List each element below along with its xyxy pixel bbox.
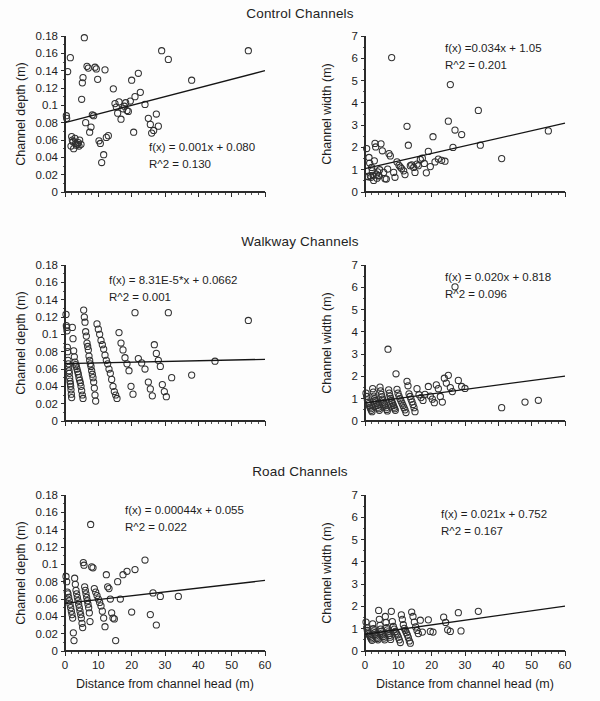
equation-annotation: f(x) = 0.001x + 0.080 (149, 141, 255, 153)
y-tick-label: 7 (352, 259, 358, 271)
plot-panel-control-width: 01234567Channel width (m)f(x) =0.034x + … (309, 24, 599, 224)
y-tick-label: 3 (352, 119, 358, 131)
x-tick-label: 0 (362, 659, 368, 671)
y-tick-label: 5 (352, 75, 358, 87)
y-tick-label: 0.04 (36, 151, 59, 163)
r-squared-annotation: R^2 = 0.001 (109, 291, 171, 303)
y-tick-label: 0.02 (36, 169, 58, 181)
scatter-points (363, 284, 542, 416)
scatter-points (364, 55, 552, 184)
y-tick-label: 0.16 (36, 506, 58, 518)
x-tick-label: 10 (392, 659, 405, 671)
y-tick-label: 0.14 (36, 65, 59, 77)
plot-panel-walkway-depth: 00.020.040.060.080.10.120.140.160.18Chan… (9, 253, 299, 453)
y-tick-label: 2 (352, 141, 358, 153)
x-axis-title: Distance from channel head (m) (376, 677, 554, 691)
regression-line (65, 359, 265, 363)
y-tick-label: 5 (352, 304, 358, 316)
x-tick-label: 40 (492, 659, 505, 671)
y-tick-label: 6 (352, 52, 358, 64)
x-tick-label: 40 (192, 659, 205, 671)
y-tick-label: 0.1 (42, 328, 58, 340)
y-axis-title: Channel width (m) (320, 522, 334, 623)
y-tick-label: 6 (352, 281, 358, 293)
x-tick-label: 50 (525, 659, 538, 671)
y-tick-label: 3 (352, 578, 358, 590)
y-tick-label: 0.1 (42, 99, 58, 111)
y-tick-label: 0.04 (36, 380, 59, 392)
y-tick-label: 0.1 (42, 558, 58, 570)
x-tick-label: 30 (159, 659, 172, 671)
y-tick-label: 7 (352, 489, 358, 501)
equation-annotation: f(x) = 0.021x + 0.752 (441, 508, 547, 520)
y-tick-label: 0.12 (36, 82, 58, 94)
y-tick-label: 1 (352, 164, 358, 176)
plot-panel-road-width: 012345670102030405060Distance from chann… (309, 483, 599, 683)
r-squared-annotation: R^2 = 0.096 (445, 288, 507, 300)
y-tick-label: 2 (352, 600, 358, 612)
y-tick-label: 0 (352, 186, 358, 198)
y-axis-title: Channel depth (m) (14, 291, 28, 395)
y-tick-label: 7 (352, 30, 358, 42)
row-title-walkway: Walkway Channels (0, 234, 600, 249)
y-tick-label: 0.12 (36, 311, 58, 323)
regression-line (365, 123, 565, 168)
regression-line (365, 376, 565, 403)
y-tick-label: 0.08 (36, 576, 58, 588)
y-tick-label: 0.08 (36, 346, 58, 358)
x-tick-label: 30 (459, 659, 472, 671)
x-tick-label: 60 (259, 659, 272, 671)
y-tick-label: 4 (352, 326, 359, 338)
r-squared-annotation: R^2 = 0.167 (441, 525, 503, 537)
y-tick-label: 0.04 (36, 610, 59, 622)
y-tick-label: 5 (352, 534, 358, 546)
y-axis-title: Channel width (m) (320, 63, 334, 164)
y-axis-title: Channel depth (m) (14, 62, 28, 166)
y-tick-label: 0.06 (36, 363, 58, 375)
equation-annotation: f(x) =0.034x + 1.05 (445, 42, 542, 54)
plot-panel-walkway-width: 01234567Channel width (m)f(x) = 0.020x +… (309, 253, 599, 453)
y-tick-label: 2 (352, 370, 358, 382)
y-tick-label: 0.18 (36, 489, 58, 501)
x-tick-label: 20 (425, 659, 438, 671)
y-tick-label: 4 (352, 97, 359, 109)
y-tick-label: 0.14 (36, 294, 59, 306)
y-tick-label: 0.16 (36, 276, 58, 288)
y-axis-title: Channel width (m) (320, 292, 334, 393)
y-tick-label: 0 (352, 645, 358, 657)
y-tick-label: 0.06 (36, 593, 58, 605)
scatter-points (63, 521, 182, 643)
x-tick-label: 0 (62, 659, 68, 671)
equation-annotation: f(x) = 0.00044x + 0.055 (125, 504, 244, 516)
equation-annotation: f(x) = 8.31E-5*x + 0.0662 (109, 274, 238, 286)
plot-panel-control-depth: 00.020.040.060.080.10.120.140.160.18Chan… (9, 24, 299, 224)
y-tick-label: 0.18 (36, 30, 58, 42)
y-tick-label: 1 (352, 623, 358, 635)
y-tick-label: 0.18 (36, 259, 58, 271)
y-tick-label: 0.16 (36, 47, 58, 59)
y-tick-label: 0.02 (36, 398, 58, 410)
y-tick-label: 0.14 (36, 524, 59, 536)
x-tick-label: 60 (559, 659, 572, 671)
y-tick-label: 0 (52, 186, 58, 198)
x-tick-label: 50 (225, 659, 238, 671)
equation-annotation: f(x) = 0.020x + 0.818 (445, 271, 551, 283)
r-squared-annotation: R^2 = 0.130 (149, 158, 211, 170)
y-tick-label: 4 (352, 556, 359, 568)
figure-root: Control Channels Walkway Channels Road C… (0, 0, 600, 701)
row-title-road: Road Channels (0, 464, 600, 479)
y-tick-label: 0 (352, 415, 358, 427)
x-tick-label: 20 (125, 659, 138, 671)
y-tick-label: 1 (352, 393, 358, 405)
y-tick-label: 0.12 (36, 541, 58, 553)
scatter-points (63, 307, 252, 404)
y-tick-label: 6 (352, 511, 358, 523)
r-squared-annotation: R^2 = 0.201 (445, 59, 507, 71)
y-axis-title: Channel depth (m) (14, 521, 28, 625)
y-tick-label: 3 (352, 348, 358, 360)
y-tick-label: 0 (52, 645, 58, 657)
y-tick-label: 0.06 (36, 134, 58, 146)
x-axis-title: Distance from channel head (m) (76, 677, 254, 691)
x-tick-label: 10 (92, 659, 105, 671)
row-title-control: Control Channels (0, 6, 600, 21)
